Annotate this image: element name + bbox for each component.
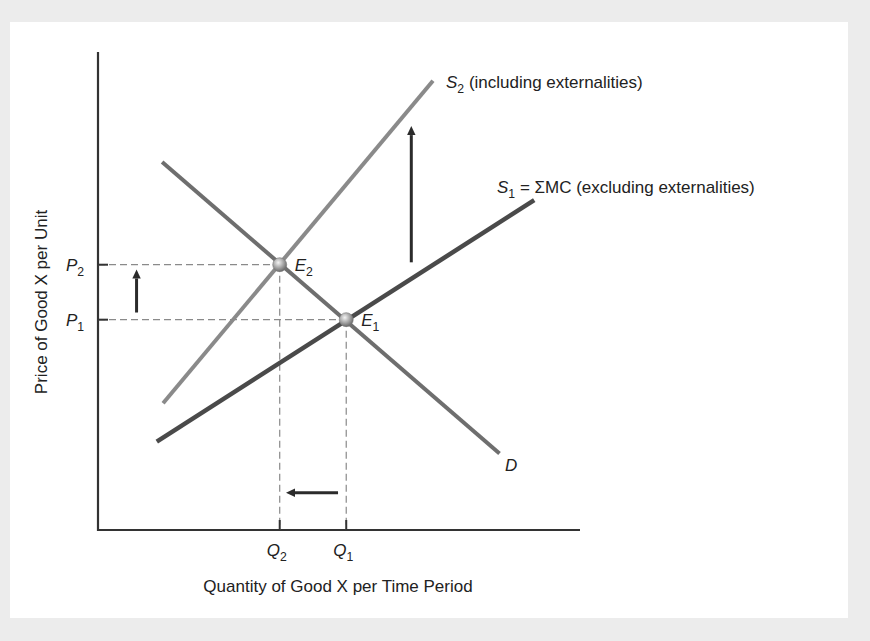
x-axis-label: Quantity of Good X per Time Period (203, 577, 472, 596)
y-tick-label-p1: P1 (66, 311, 84, 334)
supply-curve-s2-label: S2 (including externalities) (446, 73, 643, 96)
equilibrium-label-e1: E1 (361, 311, 379, 334)
y-axis-label: Price of Good X per Unit (32, 210, 51, 395)
x-tick-label-q1: Q1 (333, 541, 353, 564)
y-tick-label-p2: P2 (66, 256, 84, 279)
arrow-left-2-head-icon (286, 489, 295, 497)
demand-curve-d-label: D (505, 456, 517, 475)
arrow-up-1-head-icon (132, 269, 140, 278)
supply-curve-s1-label: S1 = ΣMC (excluding externalities) (497, 178, 755, 201)
equilibrium-label-e2: E2 (295, 256, 313, 279)
x-tick-label-q2: Q2 (267, 541, 287, 564)
equilibrium-point-e2 (273, 258, 287, 272)
equilibrium-point-e1 (339, 313, 353, 327)
supply-curve-s2 (163, 81, 433, 404)
arrow-up-0-head-icon (407, 126, 415, 135)
chart: Quantity of Good X per Time Period Price… (0, 0, 870, 641)
